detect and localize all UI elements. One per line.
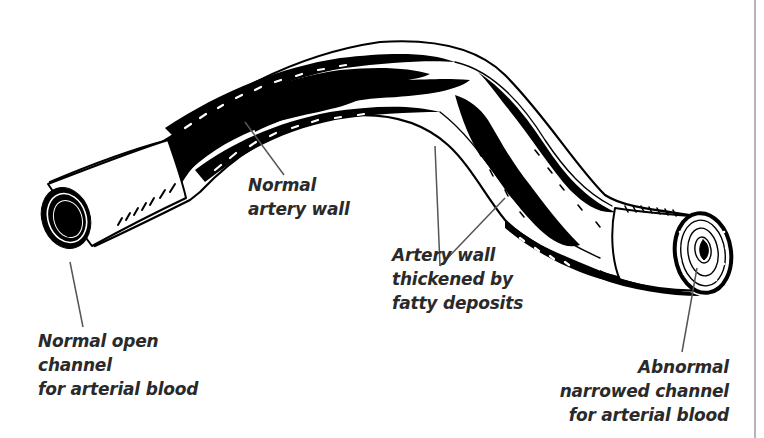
label-line: thickened by	[392, 267, 523, 291]
label-line: for arterial blood	[38, 377, 198, 401]
label-line: Artery wall	[392, 243, 523, 267]
label-normal-artery-wall: Normal artery wall	[248, 173, 350, 221]
label-line: Abnormal	[560, 355, 729, 379]
label-line: Normal open	[38, 329, 198, 353]
label-abnormal-narrowed-channel: Abnormal narrowed channel for arterial b…	[560, 355, 729, 427]
label-thickened-artery-wall: Artery wall thickened by fatty deposits	[392, 243, 523, 315]
label-line: Normal	[248, 173, 350, 197]
label-line: fatty deposits	[392, 291, 523, 315]
page-edge-divider	[754, 0, 756, 438]
leader-normal-channel	[70, 262, 83, 327]
label-line: channel	[38, 353, 198, 377]
label-line: artery wall	[248, 197, 350, 221]
artery-body	[34, 41, 737, 296]
label-line: for arterial blood	[560, 403, 729, 427]
label-normal-open-channel: Normal open channel for arterial blood	[38, 329, 198, 401]
label-line: narrowed channel	[560, 379, 729, 403]
